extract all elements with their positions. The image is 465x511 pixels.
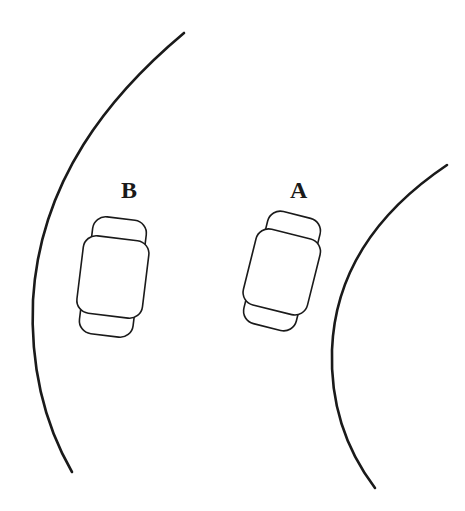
car-a-label: A <box>290 178 307 202</box>
car-a <box>236 207 328 336</box>
inner-road-edge <box>332 165 447 488</box>
car-b-body <box>75 234 150 319</box>
car-b-label: B <box>121 178 137 202</box>
car-a-body <box>240 226 323 318</box>
diagram-canvas <box>0 0 465 511</box>
car-b <box>73 214 153 339</box>
